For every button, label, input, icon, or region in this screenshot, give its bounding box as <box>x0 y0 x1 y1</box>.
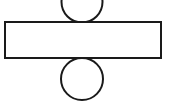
bottom-circle <box>61 58 103 100</box>
diagram-canvas <box>0 0 169 101</box>
division-sign-figure <box>0 0 169 101</box>
horizontal-bar <box>5 22 161 58</box>
